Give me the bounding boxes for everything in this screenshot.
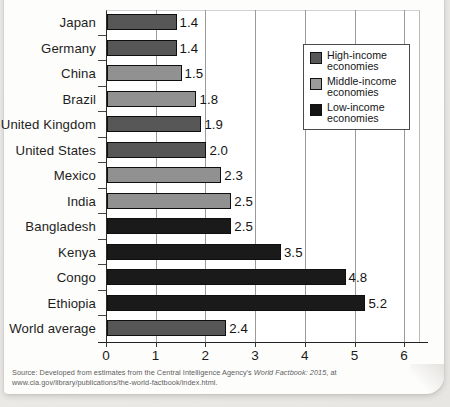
bar-row: Mexico2.3	[0, 163, 450, 187]
bar-value-label: 2.3	[224, 168, 243, 183]
category-label: India	[67, 193, 96, 208]
legend-label-high-income: High-incomeeconomies	[327, 50, 387, 73]
bar[interactable]	[107, 295, 365, 311]
source-citation: Source: Developed from estimates from th…	[12, 368, 436, 388]
bar[interactable]	[107, 218, 231, 234]
bar[interactable]	[107, 320, 226, 336]
x-tick-mark-2	[205, 342, 206, 347]
legend-label-low-income: Low-incomeeconomies	[327, 102, 385, 125]
category-label: Ethiopia	[48, 295, 96, 310]
bar[interactable]	[107, 116, 201, 132]
y-axis-tick-mark	[98, 35, 106, 36]
y-axis-tick-mark	[98, 60, 106, 61]
bar-value-label: 2.5	[234, 219, 253, 234]
chart-legend: High-incomeeconomies Middle-incomeeconom…	[303, 44, 410, 130]
category-label: Mexico	[54, 168, 96, 183]
bar[interactable]	[107, 91, 196, 107]
x-tick-mark-0	[106, 342, 107, 347]
x-tick-mark-3	[255, 342, 256, 347]
legend-item-high-income: High-incomeeconomies	[309, 50, 405, 73]
source-prefix: Source: Developed from estimates from th…	[12, 368, 254, 377]
y-axis-tick-mark	[98, 111, 106, 112]
bar[interactable]	[107, 167, 221, 183]
bar-value-label: 4.8	[349, 270, 368, 285]
bar-row: India2.5	[0, 189, 450, 213]
bar-value-label: 2.0	[209, 142, 228, 157]
bar-value-label: 1.4	[180, 40, 199, 55]
category-label: Congo	[57, 270, 96, 285]
x-axis-tick-label: 1	[144, 348, 168, 363]
y-axis-tick-mark	[98, 264, 106, 265]
y-axis-tick-mark	[98, 315, 106, 316]
y-axis-tick-mark	[98, 188, 106, 189]
category-label: Brazil	[62, 91, 96, 106]
bar-row: Japan1.4	[0, 10, 450, 34]
y-axis-tick-mark	[98, 137, 106, 138]
x-tick-mark-5	[355, 342, 356, 347]
legend-swatch-low-income-icon	[310, 104, 322, 116]
bar[interactable]	[107, 269, 346, 285]
category-label: China	[61, 66, 96, 81]
bar-row: Congo4.8	[0, 265, 450, 289]
x-axis-tick-label: 4	[293, 348, 317, 363]
bar-value-label: 2.5	[234, 193, 253, 208]
legend-swatch-high-income-icon	[310, 52, 322, 64]
category-label: Germany	[41, 40, 96, 55]
category-label: Japan	[60, 15, 96, 30]
y-axis-tick-mark	[98, 86, 106, 87]
y-axis-tick-mark	[98, 213, 106, 214]
bar[interactable]	[107, 244, 281, 260]
source-title: World Factbook: 2015	[254, 368, 326, 377]
category-label: United Kingdom	[1, 117, 96, 132]
bar-row: United States2.0	[0, 138, 450, 162]
x-tick-mark-1	[156, 342, 157, 347]
x-axis-tick-label: 0	[94, 348, 118, 363]
bar-value-label: 2.4	[229, 321, 248, 336]
legend-label-middle-income: Middle-incomeeconomies	[327, 76, 397, 99]
x-axis-tick-label: 5	[343, 348, 367, 363]
bar-chart-figure: Japan1.4Germany1.4China1.5Brazil1.8Unite…	[0, 0, 450, 407]
bar-value-label: 1.9	[204, 117, 223, 132]
bar-value-label: 1.8	[199, 91, 218, 106]
page-background: Japan1.4Germany1.4China1.5Brazil1.8Unite…	[0, 0, 450, 407]
x-axis-line	[98, 342, 428, 343]
bar[interactable]	[107, 40, 177, 56]
x-tick-mark-4	[305, 342, 306, 347]
y-axis-tick-mark	[98, 162, 106, 163]
legend-item-low-income: Low-incomeeconomies	[309, 102, 405, 125]
bar-value-label: 3.5	[284, 244, 303, 259]
category-label: United States	[16, 142, 96, 157]
bar[interactable]	[107, 65, 182, 81]
bar-row: Bangladesh2.5	[0, 214, 450, 238]
bar-row: Kenya3.5	[0, 240, 450, 264]
x-axis-tick-label: 6	[392, 348, 416, 363]
y-axis-tick-mark	[98, 290, 106, 291]
x-axis-tick-label: 2	[193, 348, 217, 363]
y-axis-tick-mark	[98, 239, 106, 240]
bar[interactable]	[107, 14, 177, 30]
bar-row: World average2.4	[0, 316, 450, 340]
legend-swatch-middle-income-icon	[310, 78, 322, 90]
bar-value-label: 1.4	[180, 15, 199, 30]
category-label: Kenya	[58, 244, 96, 259]
category-label: Bangladesh	[25, 219, 96, 234]
legend-item-middle-income: Middle-incomeeconomies	[309, 76, 405, 99]
x-tick-mark-6	[404, 342, 405, 347]
bar[interactable]	[107, 142, 206, 158]
x-axis-tick-label: 3	[243, 348, 267, 363]
bar-row: Ethiopia5.2	[0, 291, 450, 315]
bar[interactable]	[107, 193, 231, 209]
bar-value-label: 5.2	[368, 295, 387, 310]
bar-value-label: 1.5	[185, 66, 204, 81]
category-label: World average	[9, 321, 96, 336]
